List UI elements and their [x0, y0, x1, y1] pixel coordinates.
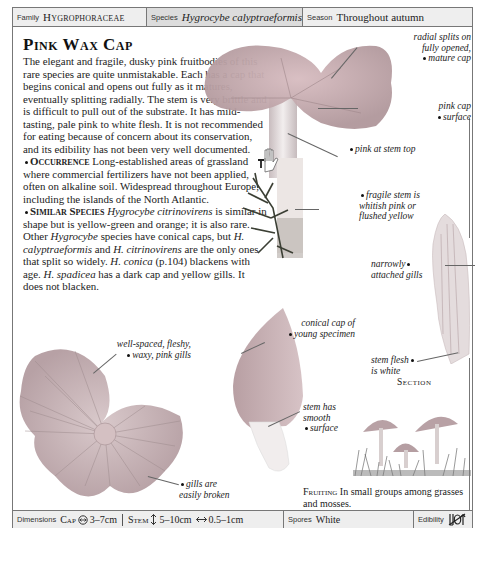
season-label: Season [307, 13, 332, 22]
diameter-icon [78, 515, 88, 525]
annotation-fragile-stem: fragile stem is whitish pink or flushed … [359, 190, 420, 222]
occurrence-heading: Occurrence [30, 155, 90, 167]
annotation-well-spaced-gills: well-spaced, fleshy, waxy, pink gills [101, 339, 191, 360]
bullet-icon [127, 354, 130, 357]
header-bar: Family Hygrophoraceae Species Hygrocybe … [13, 8, 472, 27]
annotation-gills-broken: gills are easily broken [179, 479, 230, 500]
similar-text: Hygrocybe citrinovirens is similar in sh… [23, 205, 267, 292]
bullet-icon [289, 333, 292, 336]
edibility-cell: Edibility [414, 511, 472, 528]
leader-line [295, 209, 319, 210]
poison-hand-icon [257, 148, 281, 174]
family-label: Family [17, 13, 39, 22]
bullet-icon [25, 211, 28, 214]
species-name: H. spadicea [44, 268, 96, 280]
bullet-icon [350, 148, 353, 151]
text-fragment: and [92, 243, 113, 255]
stem-height-value: 5–10cm [159, 514, 191, 525]
spores-value: White [316, 514, 340, 525]
stem-base-moss-image [243, 158, 313, 268]
cap-value: 3–7cm [90, 514, 117, 525]
bullet-icon [411, 359, 414, 362]
species-value: Hygrocybe calyptraeformis [182, 11, 302, 23]
species-name: Hygrocybe [51, 230, 98, 242]
fruiting-heading: Fruiting [303, 486, 337, 497]
season-cell: Season Throughout autumn [303, 8, 472, 26]
edibility-label: Edibility [418, 515, 444, 524]
dimensions-label: Dimensions [17, 515, 56, 524]
season-value: Throughout autumn [336, 11, 424, 23]
annotation-narrow-gills: narrowly attached gills [371, 259, 422, 280]
spores-label: Spores [288, 515, 312, 524]
species-name: H. citrinovirens [113, 243, 182, 255]
annotation-pink-cap: pink cap surface [403, 101, 471, 122]
bullet-icon [181, 483, 184, 486]
width-arrow-icon [196, 516, 207, 523]
annotation-conical-cap: conical cap of young specimen [275, 318, 355, 339]
species-name: Hygrocybe citrinovirens [107, 205, 212, 217]
divider [122, 514, 123, 526]
similar-species-paragraph: Similar Species Hygrocybe citrinovirens … [23, 205, 267, 293]
text-fragment: species have conical caps, but [98, 230, 234, 242]
height-arrow-icon [150, 514, 157, 525]
field-guide-page: Family Hygrophoraceae Species Hygrocybe … [12, 7, 473, 528]
fruiting-caption: Fruiting In small groups among grasses a… [303, 486, 472, 509]
bullet-icon [361, 194, 364, 197]
mature-mushroom-image [191, 28, 421, 178]
fruiting-habitat-image [353, 410, 473, 478]
leader-line [318, 108, 358, 109]
family-value: Hygrophoraceae [43, 11, 124, 23]
annotation-radial-splits: radial splits on fully opened, mature ca… [403, 32, 471, 64]
footer-bar: Dimensions Cap 3–7cm Stem 5–10cm 0.5–1cm… [13, 510, 472, 528]
bullet-icon [438, 116, 441, 119]
cap-label: Cap [60, 514, 76, 525]
page-title: Pink Wax Cap [23, 35, 133, 55]
species-label: Species [151, 13, 178, 22]
stem-label: Stem [128, 514, 148, 525]
stem-width-value: 0.5–1cm [209, 514, 244, 525]
bullet-icon [305, 427, 308, 430]
spores-cell: Spores White [284, 511, 414, 528]
bullet-icon [25, 161, 28, 164]
species-cell: Species Hygrocybe calyptraeformis [147, 8, 303, 26]
section-label: Section [397, 377, 431, 387]
not-edible-icon [448, 513, 466, 526]
gills-view-image [15, 336, 190, 511]
annotation-stem-smooth: stem has smooth surface [303, 402, 338, 434]
bullet-icon [407, 263, 410, 266]
annotation-pink-stem-top: pink at stem top [348, 144, 415, 155]
section-bracket-line [469, 118, 470, 238]
leader-line [445, 265, 475, 266]
species-name: H. conica [110, 255, 152, 267]
bullet-icon [423, 57, 426, 60]
annotation-stem-flesh: stem flesh is white [371, 355, 416, 376]
similar-heading: Similar Species [30, 205, 104, 217]
dimensions-cell: Dimensions Cap 3–7cm Stem 5–10cm 0.5–1cm [13, 511, 284, 528]
family-cell: Family Hygrophoraceae [13, 8, 147, 26]
section-image [431, 214, 479, 364]
